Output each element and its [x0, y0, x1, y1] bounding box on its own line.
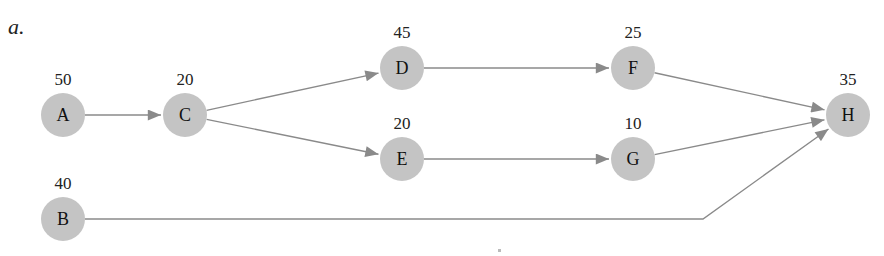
node-a: A [41, 93, 85, 137]
node-weight-d: 45 [394, 23, 411, 43]
node-label: E [397, 149, 408, 170]
node-weight-f: 25 [625, 23, 642, 43]
node-weight-e: 20 [394, 114, 411, 134]
node-label: F [628, 58, 638, 79]
node-weight-c: 20 [177, 70, 194, 90]
edge-c-d [207, 73, 379, 110]
node-weight-a: 50 [55, 70, 72, 90]
part-label: a. [8, 14, 25, 40]
graph-edges [0, 0, 884, 256]
node-g: G [611, 137, 655, 181]
edge-f-h [654, 73, 824, 110]
node-b: B [41, 197, 85, 241]
node-label: G [627, 149, 640, 170]
node-c: C [163, 93, 207, 137]
node-weight-g: 10 [625, 114, 642, 134]
node-label: B [57, 209, 69, 230]
node-f: F [611, 46, 655, 90]
edge-c-e [207, 119, 379, 154]
node-label: A [57, 105, 70, 126]
node-weight-b: 40 [55, 174, 72, 194]
node-label: C [179, 105, 191, 126]
node-h: H [826, 93, 870, 137]
node-label: D [396, 58, 409, 79]
node-d: D [380, 46, 424, 90]
stray-dot [498, 249, 501, 252]
node-label: H [842, 105, 855, 126]
node-e: E [380, 137, 424, 181]
node-weight-h: 35 [840, 70, 857, 90]
